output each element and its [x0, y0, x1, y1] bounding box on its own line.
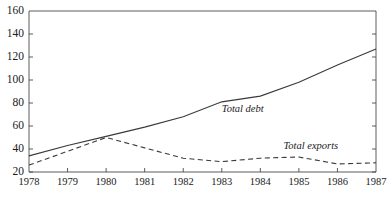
plot-area	[0, 0, 391, 197]
y-tick-label: 40	[0, 142, 24, 154]
y-tick-label: 60	[0, 119, 24, 131]
y-tick-label: 160	[0, 4, 24, 16]
x-tick-label: 1982	[163, 176, 203, 187]
x-tick-label: 1978	[9, 176, 49, 187]
x-tick-label: 1980	[86, 176, 126, 187]
x-tick-label: 1985	[279, 176, 319, 187]
x-tick-label: 1987	[356, 176, 391, 187]
y-tick-marks	[29, 34, 376, 172]
x-tick-label: 1979	[48, 176, 88, 187]
series-annotation-total-exports: Total exports	[283, 140, 338, 151]
x-tick-label: 1981	[125, 176, 165, 187]
y-tick-label: 100	[0, 73, 24, 85]
x-tick-label: 1984	[240, 176, 280, 187]
series-annotation-total-debt: Total debt	[222, 103, 264, 114]
y-tick-label: 80	[0, 96, 24, 108]
x-tick-label: 1983	[202, 176, 242, 187]
y-tick-label: 20	[0, 165, 24, 177]
y-tick-label: 140	[0, 27, 24, 39]
line-chart: 20406080100120140160 1978197919801981198…	[0, 0, 391, 197]
x-tick-marks	[68, 168, 338, 172]
x-tick-label: 1986	[317, 176, 357, 187]
y-tick-label: 120	[0, 50, 24, 62]
